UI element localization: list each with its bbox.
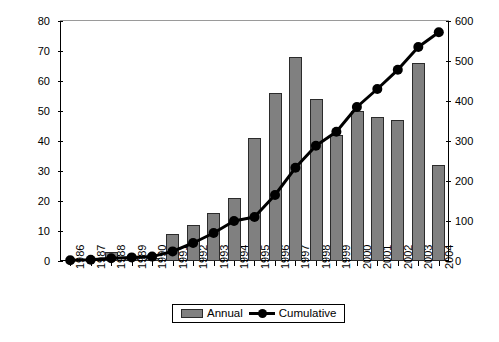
cumulative-data-point bbox=[168, 246, 178, 256]
cumulative-line-path bbox=[70, 32, 439, 260]
cumulative-data-point bbox=[434, 27, 444, 37]
cumulative-data-point bbox=[352, 102, 362, 112]
chart-legend: Annual Cumulative bbox=[172, 304, 345, 323]
cumulative-data-point bbox=[86, 255, 96, 265]
cumulative-data-point bbox=[250, 212, 260, 222]
legend-label-cumulative: Cumulative bbox=[279, 307, 337, 320]
cumulative-data-point bbox=[106, 253, 116, 263]
cumulative-line-series bbox=[0, 0, 499, 342]
bar-swatch-icon bbox=[181, 309, 203, 318]
cumulative-data-point bbox=[65, 255, 75, 265]
legend-label-annual: Annual bbox=[207, 307, 243, 320]
cumulative-data-point bbox=[413, 42, 423, 52]
cumulative-data-point bbox=[270, 190, 280, 200]
cumulative-data-point bbox=[372, 84, 382, 94]
cumulative-data-point bbox=[188, 238, 198, 248]
cumulative-data-point bbox=[393, 65, 403, 75]
cumulative-data-point bbox=[127, 252, 137, 262]
legend-entry-cumulative: Cumulative bbox=[249, 307, 337, 320]
cumulative-data-point bbox=[311, 141, 321, 151]
cumulative-data-point bbox=[147, 252, 157, 262]
cumulative-data-point bbox=[229, 216, 239, 226]
chart-container: 01020304050607080 0100200300400500600 19… bbox=[0, 0, 499, 342]
cumulative-data-point bbox=[290, 163, 300, 173]
line-marker-icon bbox=[249, 308, 275, 319]
cumulative-data-point bbox=[331, 127, 341, 137]
legend-entry-annual: Annual bbox=[181, 307, 243, 320]
cumulative-data-point bbox=[209, 228, 219, 238]
